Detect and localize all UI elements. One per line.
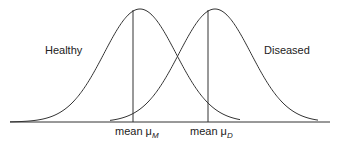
- healthy-mean-label: mean μM: [115, 125, 159, 140]
- diseased-subscript: D: [227, 131, 233, 140]
- healthy-label: Healthy: [45, 44, 82, 56]
- diseased-curve: [110, 9, 318, 120]
- distribution-curves: [0, 0, 337, 143]
- diseased-mean-label: mean μD: [190, 125, 233, 140]
- healthy-subscript: M: [152, 131, 159, 140]
- diagram-root: Healthy Diseased mean μM mean μD: [0, 0, 337, 143]
- healthy-curve: [10, 9, 240, 122]
- mean-text: mean: [190, 125, 218, 137]
- diseased-label: Diseased: [264, 44, 310, 56]
- mean-text: mean: [115, 125, 143, 137]
